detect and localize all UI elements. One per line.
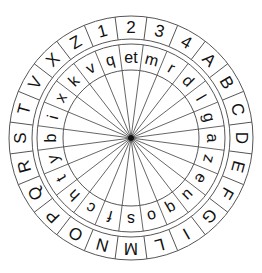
outer-separator xyxy=(115,236,118,259)
outer-letter: B xyxy=(216,73,238,92)
inner-letter: a xyxy=(204,134,221,143)
inner-letter: k xyxy=(65,71,83,89)
inner-letter: o xyxy=(145,207,158,226)
inner-letter: c xyxy=(83,199,98,218)
outer-separator xyxy=(84,25,93,46)
outer-letter: F xyxy=(216,184,238,202)
inner-letter: et xyxy=(124,49,138,66)
outer-letter: R xyxy=(13,158,35,175)
inner-letter: u xyxy=(179,186,197,204)
outer-separator xyxy=(18,91,39,100)
outer-separator xyxy=(169,25,178,46)
outer-letter: N xyxy=(94,234,111,256)
outer-letter: V xyxy=(24,73,46,93)
inner-letter: i xyxy=(44,113,61,121)
inner-letter: q xyxy=(163,199,179,218)
outer-letter: Q xyxy=(24,183,47,204)
outer-separator xyxy=(222,91,243,100)
outer-letter: P xyxy=(42,205,63,226)
outer-separator xyxy=(84,229,93,250)
outer-separator xyxy=(144,236,147,259)
inner-letter: z xyxy=(200,153,218,165)
outer-letter: M xyxy=(124,239,138,258)
inner-letter: d xyxy=(179,72,197,90)
inner-letter: e xyxy=(192,170,211,186)
outer-letter: D xyxy=(232,132,251,144)
inner-letter: s xyxy=(127,211,135,228)
outer-separator xyxy=(210,64,228,78)
inner-letter: x xyxy=(51,90,70,105)
outer-separator xyxy=(144,17,147,40)
cipher-wheel: 234ABCDEFGILMNOPQRSTVXZ1 etmrdlgazeuqosf… xyxy=(0,0,262,273)
inner-letter: f xyxy=(105,207,114,225)
outer-separator xyxy=(115,17,118,40)
outer-letter: 2 xyxy=(126,18,135,37)
outer-letter: 4 xyxy=(177,32,195,53)
outer-separator xyxy=(169,229,178,250)
outer-separator xyxy=(10,122,33,125)
inner-letter: l xyxy=(193,92,210,104)
outer-letter: A xyxy=(198,49,220,71)
outer-separator xyxy=(57,41,71,59)
inner-letter: y xyxy=(44,153,62,165)
inner-letter: q xyxy=(104,50,117,69)
inner-letter: m xyxy=(143,50,160,70)
outer-letter: T xyxy=(14,102,35,117)
inner-letter: r xyxy=(165,59,179,77)
outer-separator xyxy=(229,122,252,125)
inner-letter: g xyxy=(200,111,219,124)
outer-separator xyxy=(229,151,252,154)
inner-letter: v xyxy=(83,58,98,77)
outer-letter: L xyxy=(153,234,167,255)
outer-letter: 3 xyxy=(153,21,167,42)
inner-letter: h xyxy=(65,186,83,204)
outer-separator xyxy=(18,176,39,185)
outer-letter: X xyxy=(42,49,63,70)
outer-letter: O xyxy=(65,222,86,245)
outer-letter: 1 xyxy=(95,21,109,42)
inner-letter: t xyxy=(52,172,69,185)
inner-letter: b xyxy=(42,133,59,142)
outer-separator xyxy=(10,151,33,154)
outer-letter: C xyxy=(227,101,249,118)
center-hub xyxy=(128,135,134,141)
outer-letter: Z xyxy=(67,31,85,53)
outer-letter: S xyxy=(11,132,30,143)
outer-letter: E xyxy=(227,159,248,175)
outer-letter: I xyxy=(179,224,193,243)
outer-separator xyxy=(222,176,243,185)
